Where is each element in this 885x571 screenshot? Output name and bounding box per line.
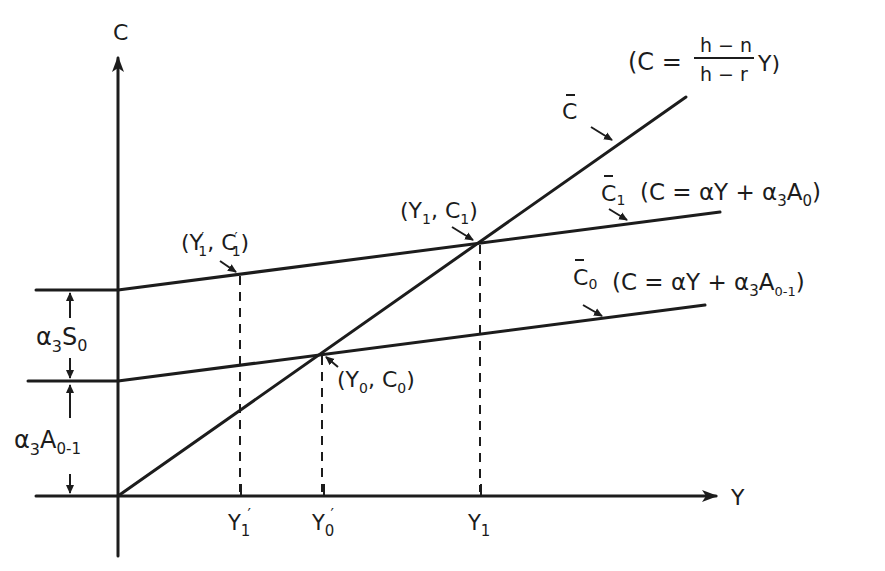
c-bar-1-equation: (C = αY + α3A0) <box>640 179 821 210</box>
svg-text:Y1′: Y1′ <box>227 506 251 540</box>
c-bar-0-label: C0 <box>573 260 602 316</box>
svg-text:α3A0-1: α3A0-1 <box>14 426 81 459</box>
svg-text:h − n: h − n <box>700 34 752 56</box>
c-bar-equation: (C = h − n h − r Y) <box>628 34 780 85</box>
svg-text:(Y′1, C′1): (Y′1, C′1) <box>181 229 249 259</box>
point-pointer-arrow <box>220 261 236 272</box>
c-axis-label: C <box>113 20 128 45</box>
svg-text:Y1: Y1 <box>467 511 490 540</box>
bracket-a3a0-1: α3A0-1 <box>14 385 81 493</box>
svg-text:Y): Y) <box>757 51 780 76</box>
svg-text:C: C <box>562 99 577 124</box>
c-bar-0-equation: (C = αY + α3A0-1) <box>612 269 805 300</box>
svg-text:(C =: (C = <box>628 48 682 76</box>
svg-text:Y0′: Y0′ <box>311 506 334 540</box>
point-pointer-arrow <box>452 227 473 240</box>
x-tick-y1: Y1 <box>467 511 490 540</box>
point-y1-prime-c1-prime: (Y′1, C′1) <box>181 229 249 272</box>
c-bar-label: C <box>562 95 612 140</box>
svg-text:h − r: h − r <box>700 63 748 85</box>
point-y1-c1: (Y1, C1) <box>400 198 478 240</box>
x-tick-y0-prime: Y0′ <box>311 506 334 540</box>
y-axis-label: Y <box>730 485 745 510</box>
consumption-diagram: C Y Y1′ Y0′ Y1 C (C = h − n h − r Y) C1 <box>0 0 885 571</box>
svg-text:α3S0: α3S0 <box>36 323 87 356</box>
x-tick-y1-prime: Y1′ <box>227 506 251 540</box>
svg-text:(Y0, C0): (Y0, C0) <box>337 367 415 396</box>
svg-text:(Y1, C1): (Y1, C1) <box>400 198 478 227</box>
c-bar-line <box>118 97 686 496</box>
c-bar-1-label: C1 <box>601 176 627 220</box>
svg-text:C0: C0 <box>573 265 597 292</box>
c-bar-pointer-arrow <box>591 127 612 140</box>
point-y0-c0: (Y0, C0) <box>326 357 415 396</box>
bracket-a3s0: α3S0 <box>36 293 87 378</box>
c-bar-1-pointer-arrow <box>609 209 627 220</box>
svg-text:C1: C1 <box>601 181 625 208</box>
c-bar-0-pointer-arrow <box>583 305 602 316</box>
point-pointer-arrow <box>326 357 338 367</box>
